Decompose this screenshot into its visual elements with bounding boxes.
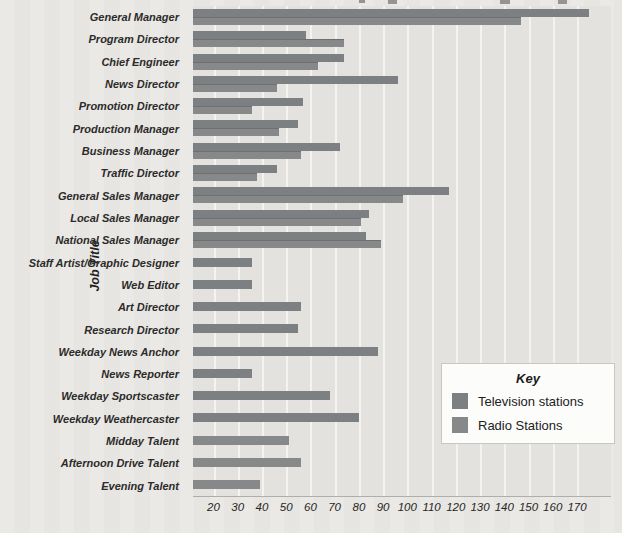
chart-row [193,273,611,295]
chart-row [193,162,611,184]
bar-radio-stations [193,84,277,92]
bar-television-stations [193,31,306,39]
category-label: Evening Talent [0,475,186,497]
chart-row [193,229,611,251]
category-label: Chief Engineer [0,51,186,73]
legend-item-label: Radio Stations [478,418,563,433]
bar-radio-stations [193,436,289,445]
legend-key-box: Key Television stationsRadio Stations [441,363,615,444]
bar-radio-stations [193,128,279,136]
x-tick-label-130: 130 [470,501,489,513]
bar-television-stations [193,9,589,17]
category-label: Midday Talent [0,430,186,452]
chart-row [193,451,611,473]
category-label: Production Manager [0,118,186,140]
x-tick-label-80: 80 [352,501,365,513]
bar-radio-stations [193,151,301,159]
category-label: News Reporter [0,363,186,385]
chart-row [193,51,611,73]
chart-row [193,318,611,340]
bar-television-stations [193,369,252,378]
bar-radio-stations [193,173,257,181]
category-label: News Director [0,73,186,95]
chart-row [193,184,611,206]
television-swatch [452,393,468,409]
chart-row [193,73,611,95]
x-tick-label-20: 20 [207,501,220,513]
chart-row [193,95,611,117]
chart-row [193,295,611,317]
chart-row [193,28,611,50]
cropped-text-artifact [359,0,365,3]
category-label: Promotion Director [0,95,186,117]
bar-television-stations [193,54,344,62]
cropped-text-artifact [558,0,567,4]
x-axis-ticks: 2030405060708090100110120130140150160170 [193,501,611,519]
bar-television-stations [193,76,398,84]
bar-television-stations [193,391,330,400]
x-tick-label-50: 50 [280,501,293,513]
cropped-text-artifact [500,0,510,4]
legend-items: Television stationsRadio Stations [452,393,604,441]
category-label: Research Director [0,318,186,340]
category-label: General Sales Manager [0,185,186,207]
category-label: Web Editor [0,274,186,296]
bar-radio-stations [193,218,361,226]
category-label: Weekday News Anchor [0,341,186,363]
x-tick-label-60: 60 [304,501,317,513]
bar-television-stations [193,120,298,128]
x-tick-label-40: 40 [255,501,268,513]
bar-radio-stations [193,240,381,248]
chart-row [193,206,611,228]
bar-television-stations [193,347,378,356]
chart-row [193,251,611,273]
bar-radio-stations [193,458,301,467]
category-label: Business Manager [0,140,186,162]
x-tick-label-100: 100 [398,501,417,513]
legend-item-label: Television stations [478,394,584,409]
bar-television-stations [193,232,366,240]
bar-television-stations [193,98,303,106]
chart-row [193,117,611,139]
x-tick-label-90: 90 [377,501,390,513]
bar-radio-stations [193,17,521,25]
bar-television-stations [193,165,277,173]
category-label: Weekday Weathercaster [0,408,186,430]
scanned-figure-page: Job Title General ManagerProgram Directo… [0,0,622,533]
bar-television-stations [193,187,449,195]
legend-item: Radio Stations [452,417,604,433]
chart-row [193,474,611,496]
bar-television-stations [193,413,359,422]
chart-row [193,140,611,162]
chart-row [193,6,611,28]
x-tick-label-150: 150 [519,501,538,513]
x-tick-label-140: 140 [495,501,514,513]
x-tick-label-70: 70 [328,501,341,513]
bar-radio-stations [193,106,252,114]
x-tick-label-170: 170 [567,501,586,513]
category-label: Staff Artist/Graphic Designer [0,251,186,273]
category-label: Afternoon Drive Talent [0,452,186,474]
x-tick-label-120: 120 [446,501,465,513]
bar-television-stations [193,302,301,311]
category-label: Local Sales Manager [0,207,186,229]
bar-television-stations [193,324,298,333]
category-label: Program Director [0,28,186,50]
bar-radio-stations [193,39,344,47]
x-tick-label-110: 110 [422,501,440,513]
bar-television-stations [193,280,252,289]
legend-title: Key [452,371,604,386]
bar-television-stations [193,210,369,218]
chart-row [193,340,611,362]
category-label: Traffic Director [0,162,186,184]
category-label: Weekday Sportscaster [0,385,186,407]
category-labels-column: General ManagerProgram DirectorChief Eng… [0,6,186,497]
category-label: National Sales Manager [0,229,186,251]
bar-radio-stations [193,480,260,489]
category-label: Art Director [0,296,186,318]
radio-swatch [452,417,468,433]
category-label: General Manager [0,6,186,28]
cropped-text-artifact [388,0,397,4]
x-tick-label-30: 30 [231,501,244,513]
bar-radio-stations [193,195,403,203]
